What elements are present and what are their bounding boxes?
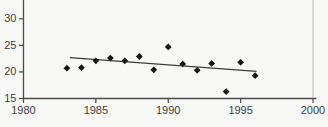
x-tick-label: 2000 — [301, 104, 325, 116]
scatter-plot-svg: 1520253019801985199019952000 — [0, 0, 328, 127]
x-tick-label: 1995 — [228, 104, 252, 116]
scatter-chart: 1520253019801985199019952000 — [0, 0, 328, 127]
y-tick-label: 25 — [4, 39, 16, 51]
x-tick-label: 1990 — [156, 104, 180, 116]
x-tick-label: 1985 — [84, 104, 108, 116]
y-tick-label: 15 — [4, 92, 16, 104]
y-tick-label: 30 — [4, 12, 16, 24]
x-tick-label: 1980 — [11, 104, 35, 116]
y-tick-label: 20 — [4, 65, 16, 77]
